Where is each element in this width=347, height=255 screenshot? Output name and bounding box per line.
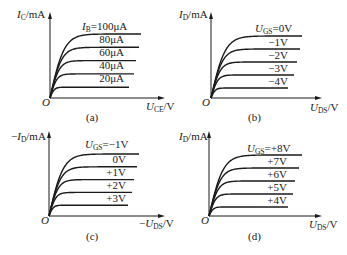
curve-label: UGS=−1V [85, 138, 128, 152]
curve-label: −1V [268, 36, 288, 48]
curve-label: +2V [106, 179, 126, 191]
characteristic-curve [50, 34, 141, 98]
origin-label: O [41, 214, 49, 226]
x-axis-label: −UDS/V [139, 217, 174, 231]
curve-label: UGS=0V [255, 22, 292, 36]
panel-d: ID/mA UDS/V O (d) UGS=+8V +7V +6V +5V +4… [178, 130, 338, 243]
curve-label: 0V [113, 153, 127, 165]
y-axis-label: ID/mA [178, 130, 208, 144]
curve-label: +4V [267, 194, 287, 206]
panel-b: ID/mA UDS/V O (b) UGS=0V −1V −2V −3V −4V [178, 8, 339, 124]
panel-caption: (a) [86, 111, 99, 124]
panel-caption: (c) [86, 230, 99, 243]
x-axis-label: UCE/V [146, 100, 175, 114]
curves [50, 34, 141, 98]
characteristic-curve [50, 47, 139, 98]
curve-label: 80μA [99, 33, 124, 45]
characteristic-curve [209, 207, 288, 216]
x-axis-label: UDS/V [310, 101, 339, 115]
curves [209, 155, 302, 216]
panel-caption: (b) [248, 111, 261, 124]
y-axis-arrow-icon [209, 12, 213, 19]
characteristic-curve [211, 88, 288, 98]
x-axis-arrow-icon [315, 96, 322, 100]
y-axis-label: −ID/mA [11, 130, 46, 144]
curve-label: UGS=+8V [247, 142, 290, 156]
curve-label: +3V [106, 192, 126, 204]
curve-label: 40μA [99, 59, 124, 71]
origin-label: O [202, 96, 210, 108]
y-axis-label: ID/mA [178, 8, 208, 22]
curves [211, 36, 302, 98]
curve-label: 20μA [99, 72, 124, 84]
curve-label: +1V [106, 166, 126, 178]
curve-label: −2V [268, 49, 288, 61]
curve-label: +7V [267, 155, 287, 167]
curve-label: 60μA [99, 46, 124, 58]
x-axis-label: UDS/V [309, 218, 338, 232]
characteristic-curve [49, 205, 128, 216]
characteristic-curve [50, 87, 129, 98]
y-axis-arrow-icon [47, 131, 51, 138]
panel-c: −ID/mA −UDS/V O (c) UGS=−1V 0V +1V +2V +… [11, 130, 174, 243]
panel-caption: (d) [248, 230, 261, 243]
output-characteristics-figure: IC/mA UCE/V O (a) IB=100μA 80μA 60μA 40μ… [0, 0, 347, 255]
y-axis-label: IC/mA [16, 8, 45, 22]
curve-label: −3V [268, 62, 288, 74]
curve-label: −4V [268, 75, 288, 87]
panel-a: IC/mA UCE/V O (a) IB=100μA 80μA 60μA 40μ… [16, 8, 175, 124]
origin-label: O [42, 96, 50, 108]
curve-label: +6V [267, 168, 287, 180]
origin-label: O [201, 214, 209, 226]
curve-label: IB=100μA [81, 20, 127, 34]
y-axis-arrow-icon [48, 12, 52, 19]
curve-label: +5V [267, 181, 287, 193]
